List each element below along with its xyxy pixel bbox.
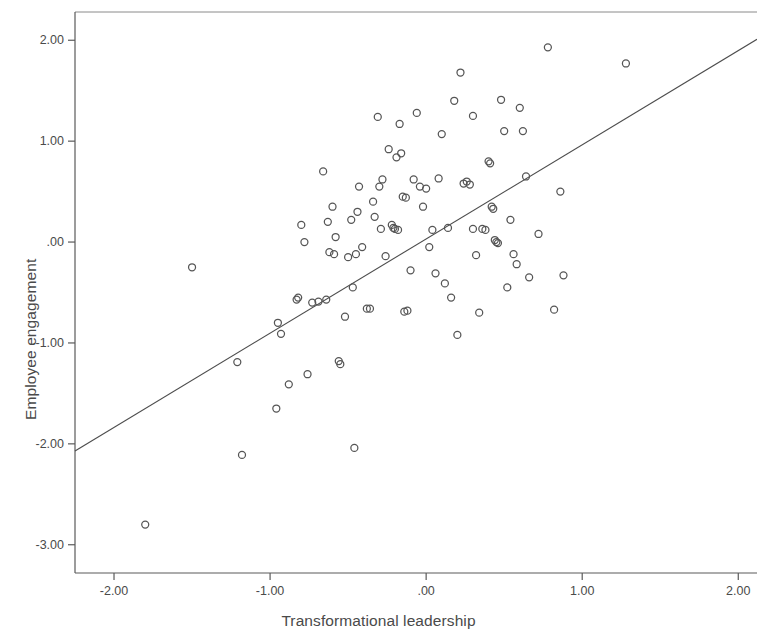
scatter-point <box>429 226 436 233</box>
scatter-point <box>473 252 480 259</box>
scatter-point <box>513 261 520 268</box>
x-tick-label: .00 <box>417 584 434 598</box>
scatter-point <box>469 112 476 119</box>
regression-line-group <box>75 39 757 451</box>
scatter-point <box>501 128 508 135</box>
scatter-point <box>295 294 302 301</box>
scatter-point <box>354 208 361 215</box>
scatter-point <box>622 60 629 67</box>
scatter-point <box>410 176 417 183</box>
scatter-point <box>435 175 442 182</box>
scatter-point <box>407 267 414 274</box>
scatter-point <box>432 270 439 277</box>
y-tick-label: 1.00 <box>0 134 64 148</box>
scatter-point <box>341 313 348 320</box>
scatter-point <box>301 239 308 246</box>
scatter-point <box>385 146 392 153</box>
scatter-point <box>376 183 383 190</box>
scatter-point <box>274 319 281 326</box>
x-tick-label: 2.00 <box>726 584 750 598</box>
y-tick-label: -1.00 <box>0 336 64 350</box>
scatter-point <box>356 183 363 190</box>
scatter-point <box>382 253 389 260</box>
scatter-point <box>490 205 497 212</box>
scatter-point <box>438 131 445 138</box>
scatter-point <box>420 203 427 210</box>
scatter-point <box>273 405 280 412</box>
scatter-point <box>454 331 461 338</box>
scatter-point <box>544 44 551 51</box>
scatter-point <box>557 188 564 195</box>
scatter-point <box>304 371 311 378</box>
scatter-plot-figure: Transformational leadership Employee eng… <box>0 0 757 636</box>
axis-lines <box>75 12 757 573</box>
scatter-point <box>413 109 420 116</box>
plot-canvas <box>0 0 757 636</box>
regression-line <box>75 39 757 451</box>
scatter-point <box>377 225 384 232</box>
scatter-point <box>285 381 292 388</box>
scatter-point <box>359 244 366 251</box>
scatter-point <box>189 264 196 271</box>
y-axis-ticks <box>68 40 75 544</box>
scatter-point <box>457 69 464 76</box>
scatter-point <box>487 160 494 167</box>
x-tick-label: -1.00 <box>256 584 285 598</box>
scatter-point <box>451 97 458 104</box>
y-tick-label: -3.00 <box>0 538 64 552</box>
scatter-point <box>374 113 381 120</box>
scatter-point <box>504 284 511 291</box>
scatter-point <box>423 185 430 192</box>
scatter-point <box>507 216 514 223</box>
scatter-point <box>332 234 339 241</box>
scatter-point <box>398 150 405 157</box>
scatter-point <box>516 104 523 111</box>
scatter-point <box>320 168 327 175</box>
scatter-point <box>393 154 400 161</box>
scatter-point <box>379 176 386 183</box>
x-axis-ticks <box>114 573 738 580</box>
scatter-point <box>142 521 149 528</box>
x-axis-title: Transformational leadership <box>0 612 757 630</box>
scatter-point <box>345 254 352 261</box>
y-tick-label: 2.00 <box>0 33 64 47</box>
scatter-point <box>278 330 285 337</box>
scatter-point <box>349 284 356 291</box>
scatter-point <box>535 230 542 237</box>
scatter-point <box>510 251 517 258</box>
y-tick-label: .00 <box>0 235 64 249</box>
scatter-point <box>352 251 359 258</box>
scatter-point <box>426 244 433 251</box>
scatter-point <box>441 280 448 287</box>
scatter-point <box>469 225 476 232</box>
scatter-point <box>371 213 378 220</box>
scatter-point <box>560 272 567 279</box>
scatter-point <box>476 309 483 316</box>
y-tick-label: -2.00 <box>0 437 64 451</box>
scatter-point <box>298 221 305 228</box>
scatter-point <box>519 128 526 135</box>
x-tick-label: 1.00 <box>570 584 594 598</box>
scatter-point <box>348 216 355 223</box>
scatter-point <box>551 306 558 313</box>
scatter-point <box>238 451 245 458</box>
x-tick-label: -2.00 <box>100 584 129 598</box>
scatter-point <box>370 198 377 205</box>
scatter-point <box>448 294 455 301</box>
scatter-point <box>234 359 241 366</box>
scatter-point <box>329 203 336 210</box>
scatter-point <box>498 96 505 103</box>
scatter-point <box>526 274 533 281</box>
scatter-point <box>351 444 358 451</box>
scatter-point <box>324 218 331 225</box>
scatter-points-group <box>142 44 630 528</box>
scatter-point <box>396 120 403 127</box>
